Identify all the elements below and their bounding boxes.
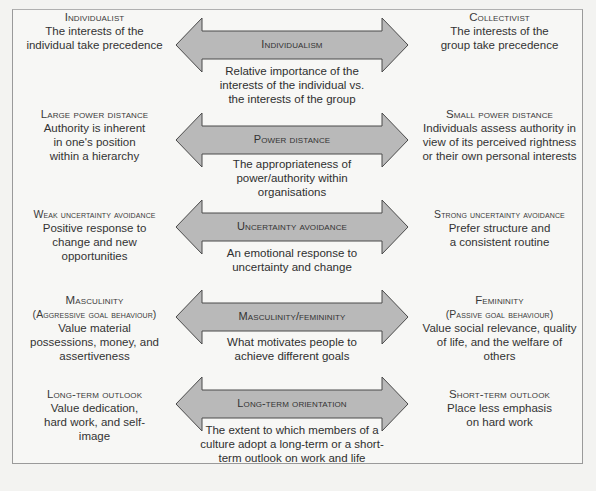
dimension-definition: An emotional response to uncertainty and… xyxy=(190,246,394,274)
left-pole-long-term-outlook: Long-term outlook Value dedication, hard… xyxy=(12,387,177,443)
pole-subtitle: (Passive goal behaviour) xyxy=(412,307,587,321)
pole-title: Small power distance xyxy=(412,107,587,121)
right-pole-small-power-distance: Small power distance Individuals assess … xyxy=(412,107,587,163)
pole-title: Weak uncertainty avoidance xyxy=(12,207,177,221)
pole-title: Individualist xyxy=(12,10,177,24)
dimension-definition: The extent to which members of a culture… xyxy=(190,423,394,465)
left-pole-large-power-distance: Large power distance Authority is inhere… xyxy=(12,107,177,163)
dimension-label: Power distance xyxy=(175,133,409,145)
pole-title: Long-term outlook xyxy=(12,387,177,401)
pole-subtitle: (Aggressive goal behaviour) xyxy=(12,307,177,321)
pole-title: Masculinity xyxy=(12,293,177,307)
dimension-definition: Relative importance of the interests of … xyxy=(190,64,394,106)
right-pole-short-term-outlook: Short-term outlook Place less emphasis o… xyxy=(412,387,587,429)
dimension-label: Long-term orientation xyxy=(175,397,409,409)
dimension-label: Masculinity/femininity xyxy=(175,310,409,322)
pole-description: Place less emphasis on hard work xyxy=(445,401,555,429)
left-pole-weak-uncertainty-avoidance: Weak uncertainty avoidance Positive resp… xyxy=(12,207,177,263)
dimension-label: Individualism xyxy=(175,38,409,50)
pole-title: Femininity xyxy=(412,293,587,307)
pole-description: Value dedication, hard work, and self-im… xyxy=(40,401,150,443)
pole-description: The interests of the individual take pre… xyxy=(25,24,165,52)
pole-description: Prefer structure and a consistent routin… xyxy=(445,221,555,249)
pole-description: Individuals assess authority in view of … xyxy=(420,121,580,163)
dimension-label: Uncertainty avoidance xyxy=(175,220,409,232)
pole-description: Value social relevance, quality of life,… xyxy=(420,321,580,363)
right-pole-strong-uncertainty-avoidance: Strong uncertainty avoidance Prefer stru… xyxy=(412,207,587,249)
left-pole-individualist: Individualist The interests of the indiv… xyxy=(12,10,177,52)
pole-description: Positive response to change and new oppo… xyxy=(25,221,165,263)
pole-title: Strong uncertainty avoidance xyxy=(412,207,587,221)
pole-title: Large power distance xyxy=(12,107,177,121)
pole-description: Value material possessions, money, and a… xyxy=(25,321,165,363)
pole-title: Short-term outlook xyxy=(412,387,587,401)
dimension-definition: The appropriateness of power/authority w… xyxy=(190,157,394,199)
pole-description: The interests of the group take preceden… xyxy=(435,24,565,52)
left-pole-masculinity: Masculinity (Aggressive goal behaviour) … xyxy=(12,293,177,363)
pole-title: Collectivist xyxy=(412,10,587,24)
right-pole-femininity: Femininity (Passive goal behaviour) Valu… xyxy=(412,293,587,363)
dimension-definition: What motivates people to achieve differe… xyxy=(190,335,394,363)
pole-description: Authority is inherent in one's position … xyxy=(40,121,150,163)
right-pole-collectivist: Collectivist The interests of the group … xyxy=(412,10,587,52)
